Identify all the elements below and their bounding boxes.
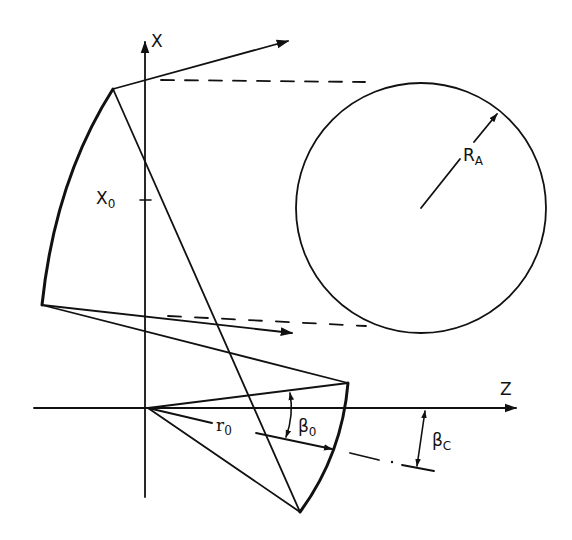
betac-arrow: [417, 411, 425, 466]
origin-to-arc-top: [148, 383, 348, 408]
lower-ray: [42, 305, 292, 333]
lower-dashed-line: [168, 316, 366, 326]
upper-dashed-line: [161, 80, 365, 82]
x0-label: X0: [96, 190, 115, 210]
betac-dashdot-2: [402, 465, 434, 471]
x-axis-label: X: [151, 33, 163, 50]
optics-diagram: [0, 0, 572, 540]
z-axis-label: Z: [500, 381, 512, 398]
betac-dot: [391, 461, 393, 463]
beta0-label: β0: [298, 418, 317, 438]
beta0-arc: [286, 393, 291, 437]
ra-line-end: [474, 114, 497, 142]
betac-label: βC: [432, 432, 451, 452]
r0-line-end: [256, 433, 332, 449]
ra-line-start: [421, 159, 460, 208]
ra-label: RA: [463, 147, 483, 167]
betac-dashdot-1: [350, 453, 379, 460]
r0-label: r0: [216, 417, 232, 437]
